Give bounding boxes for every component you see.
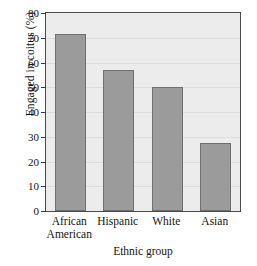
- y-tick-label: 50: [28, 82, 39, 93]
- x-tick-label-line1: Asian: [201, 215, 228, 227]
- bar: [55, 34, 86, 211]
- y-tick-mark: [41, 13, 46, 14]
- y-tick-mark: [41, 87, 46, 88]
- y-tick-mark: [41, 38, 46, 39]
- y-tick-label: 40: [28, 107, 39, 118]
- y-tick-mark: [41, 162, 46, 163]
- y-tick-mark: [41, 211, 46, 212]
- y-tick-mark: [41, 112, 46, 113]
- x-axis-title: Ethnic group: [45, 245, 241, 257]
- bar: [200, 143, 231, 211]
- y-tick-mark: [41, 186, 46, 187]
- y-tick-mark: [41, 137, 46, 138]
- y-tick-label: 60: [28, 57, 39, 68]
- y-tick-label: 80: [28, 8, 39, 19]
- y-tick-label: 70: [28, 32, 39, 43]
- plot-area: 01020304050607080: [45, 12, 241, 212]
- bar: [152, 87, 183, 211]
- y-tick-label: 30: [28, 131, 39, 142]
- x-tick-label-line2: American: [24, 228, 114, 241]
- y-tick-label: 20: [28, 156, 39, 167]
- bars-group: [46, 13, 240, 211]
- y-tick-label: 10: [28, 181, 39, 192]
- bar: [103, 70, 134, 211]
- x-tick-label: Asian: [170, 215, 257, 228]
- bar-chart-figure: Engaged in coitus (%) 01020304050607080 …: [0, 0, 257, 266]
- y-tick-mark: [41, 63, 46, 64]
